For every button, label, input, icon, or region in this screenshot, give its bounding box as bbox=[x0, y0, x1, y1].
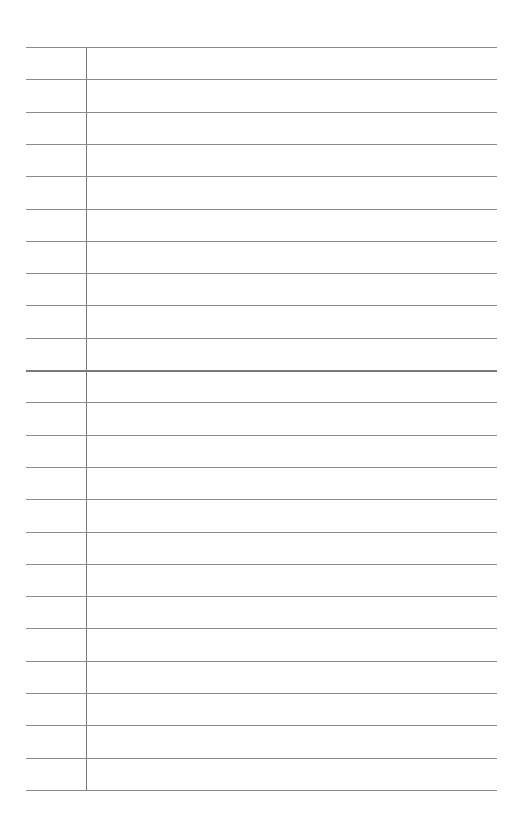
ruled-line bbox=[26, 176, 497, 177]
ruled-line bbox=[26, 499, 497, 500]
ruled-line bbox=[26, 209, 497, 210]
ruled-line bbox=[26, 435, 497, 436]
ruled-line bbox=[26, 79, 497, 80]
ruled-line bbox=[26, 628, 497, 629]
margin-line bbox=[86, 47, 87, 790]
lined-paper bbox=[0, 0, 515, 837]
ruled-line bbox=[26, 661, 497, 662]
ruled-line bbox=[26, 370, 497, 372]
ruled-line bbox=[26, 467, 497, 468]
ruled-line bbox=[26, 693, 497, 694]
ruled-line bbox=[26, 532, 497, 533]
ruled-line bbox=[26, 241, 497, 242]
ruled-line bbox=[26, 564, 497, 565]
ruled-line bbox=[26, 758, 497, 759]
ruled-line bbox=[26, 47, 497, 48]
ruled-line bbox=[26, 338, 497, 339]
ruled-line bbox=[26, 144, 497, 145]
ruled-line bbox=[26, 725, 497, 726]
ruled-line bbox=[26, 273, 497, 274]
ruled-line bbox=[26, 790, 497, 791]
ruled-line bbox=[26, 305, 497, 306]
ruled-line bbox=[26, 596, 497, 597]
ruled-line bbox=[26, 402, 497, 403]
ruled-line bbox=[26, 112, 497, 113]
